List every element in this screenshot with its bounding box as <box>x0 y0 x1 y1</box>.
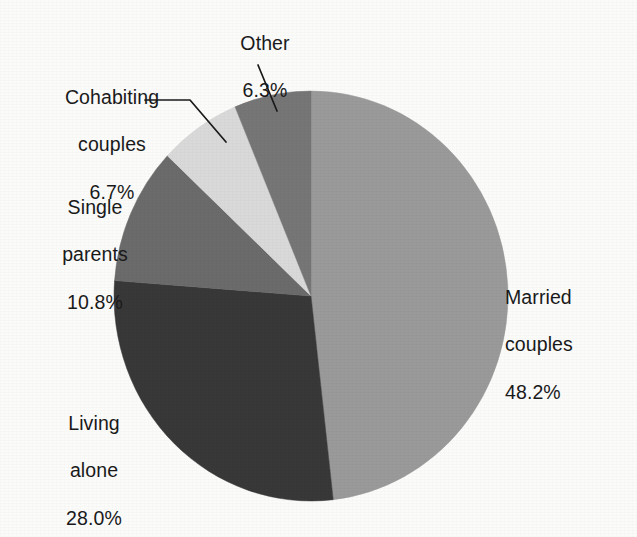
pie-label-single-parents: Single parents 10.8% <box>20 172 170 338</box>
pie-label-cohabiting-couples-name-line2: couples <box>22 133 202 157</box>
pie-label-cohabiting-couples-name-line1: Cohabiting <box>22 86 202 110</box>
pie-label-single-parents-name-line1: Single <box>20 196 170 220</box>
pie-label-other-name: Other <box>205 32 325 56</box>
pie-label-married-couples-name-line1: Married <box>505 286 637 310</box>
pie-label-single-parents-name-line2: parents <box>20 243 170 267</box>
pie-label-living-alone: Living alone 28.0% <box>18 388 170 537</box>
pie-label-living-alone-name-line2: alone <box>18 459 170 483</box>
pie-label-living-alone-name-line1: Living <box>18 412 170 436</box>
pie-label-single-parents-value: 10.8% <box>20 291 170 315</box>
pie-label-other: Other 6.3% <box>205 8 325 127</box>
pie-label-other-value: 6.3% <box>205 79 325 103</box>
pie-label-married-couples-name-line2: couples <box>505 333 637 357</box>
pie-slice-married-couples[interactable] <box>311 91 508 500</box>
pie-label-living-alone-value: 28.0% <box>18 507 170 531</box>
pie-label-married-couples: Married couples 48.2% <box>505 262 637 428</box>
pie-chart: Other 6.3% Cohabiting couples 6.7% Singl… <box>0 0 637 537</box>
pie-label-married-couples-value: 48.2% <box>505 381 637 405</box>
